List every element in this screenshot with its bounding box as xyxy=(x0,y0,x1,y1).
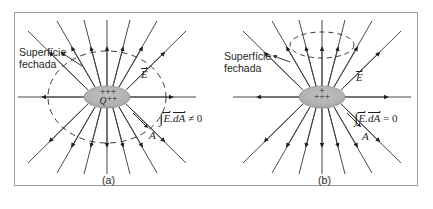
charge-label-Q: Q xyxy=(100,96,107,106)
surface-label-b: Superfície fechada xyxy=(224,50,271,74)
panel-caption-b: (b) xyxy=(318,174,331,186)
flux-dA-vector-a: dA xyxy=(173,112,185,124)
charge-symbol-a-row2: ++ xyxy=(107,94,118,104)
E-text-a: E xyxy=(141,68,148,80)
flux-E-b: E xyxy=(359,112,366,124)
surface-label-b-line2: fechada xyxy=(224,62,271,74)
flux-formula-b: ∫E.dA = 0 xyxy=(354,110,398,127)
area-vector-label-b: A xyxy=(362,130,369,142)
surface-leader-b xyxy=(274,56,290,62)
flux-formula-a: ∫E.dA ≠ 0 xyxy=(159,110,202,127)
E-text-b: E xyxy=(356,71,363,83)
flux-E-vector-a: E xyxy=(164,112,171,124)
electric-field-label-a: E xyxy=(141,68,148,80)
field-line-diagram: +++ ++ Q +++ + xyxy=(0,0,433,209)
area-vector-leader-a xyxy=(133,113,147,127)
charge-symbol-b-row2: + xyxy=(319,86,324,96)
flux-relation-a: ≠ 0 xyxy=(188,112,202,124)
surface-label-b-line1: Superfície xyxy=(224,50,271,62)
figure-root: +++ ++ Q +++ + Superfície fechada Superf… xyxy=(0,0,433,209)
flux-relation-b: = 0 xyxy=(383,112,397,124)
panel-caption-a: (a) xyxy=(102,174,115,186)
flux-dA-b: dA xyxy=(368,112,380,124)
surface-label-a-line1: Superfície xyxy=(19,46,66,58)
surface-label-a: Superfície fechada xyxy=(19,46,66,70)
flux-E-a: E xyxy=(164,112,171,124)
surface-label-a-line2: fechada xyxy=(19,58,66,70)
electric-field-label-b: E xyxy=(356,71,363,83)
flux-dA-vector-b: dA xyxy=(368,112,380,124)
area-vector-label-a: A xyxy=(149,129,156,141)
flux-E-vector-b: E xyxy=(359,112,366,124)
flux-dA-a: dA xyxy=(173,112,185,124)
